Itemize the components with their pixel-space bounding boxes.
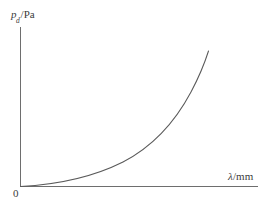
y-axis-unit: Pa [24, 8, 35, 20]
figure-container: pd/Pa λ/mm 0 [0, 0, 267, 209]
origin-label: 0 [13, 188, 19, 199]
plot-area [0, 0, 267, 209]
x-axis-unit: mm [236, 170, 253, 182]
data-curve [21, 51, 209, 187]
x-axis-label: λ/mm [228, 171, 253, 182]
y-axis-subscript: d [16, 16, 20, 25]
y-axis-label: pd/Pa [11, 9, 35, 23]
